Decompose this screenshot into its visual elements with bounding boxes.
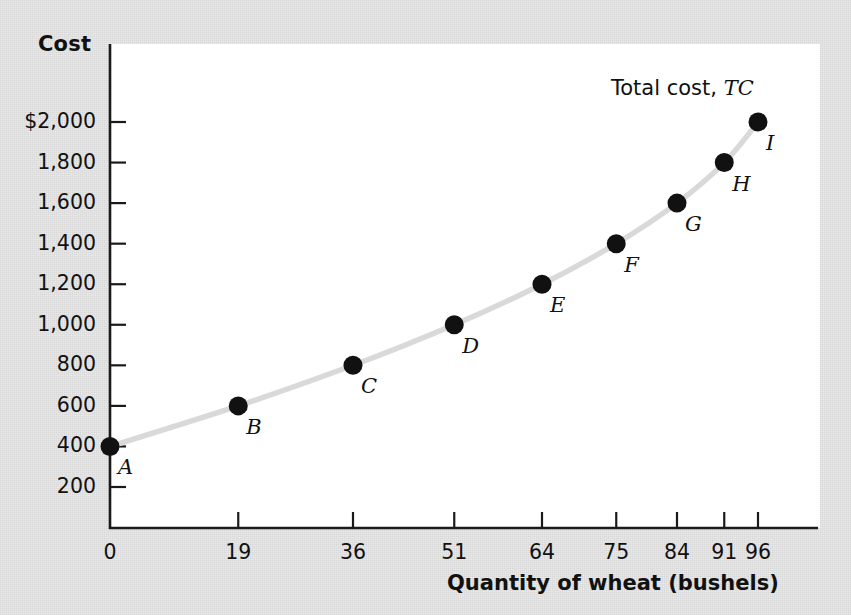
axis-lines: [110, 44, 818, 528]
y-tick-label-800: 800: [0, 352, 96, 376]
x-tick-label-64: 64: [502, 540, 582, 564]
data-point-D[interactable]: [445, 315, 464, 334]
y-tick-label-1400: 1,400: [0, 231, 96, 255]
x-tick-label-19: 19: [198, 540, 278, 564]
y-tick-label-600: 600: [0, 393, 96, 417]
y-tick-label-1800: 1,800: [0, 150, 96, 174]
data-point-label-E: E: [550, 293, 565, 317]
data-point-B[interactable]: [229, 396, 248, 415]
data-point-label-C: C: [361, 374, 377, 398]
total-cost-curve-figure: Cost Quantity of wheat (bushels) Total c…: [0, 0, 851, 615]
data-point-I[interactable]: [749, 113, 768, 132]
x-tick-label-51: 51: [414, 540, 494, 564]
data-point-E[interactable]: [533, 275, 552, 294]
data-point-label-D: D: [462, 334, 479, 358]
ticks-group: [110, 122, 758, 528]
x-tick-label-0: 0: [70, 540, 150, 564]
y-tick-label-2000: $2,000: [0, 109, 96, 133]
data-point-label-A: A: [118, 455, 133, 479]
y-tick-label-1000: 1,000: [0, 312, 96, 336]
x-tick-label-36: 36: [313, 540, 393, 564]
data-point-F[interactable]: [607, 234, 626, 253]
data-point-C[interactable]: [344, 356, 363, 375]
data-point-A[interactable]: [101, 437, 120, 456]
total-cost-curve: [110, 122, 758, 446]
data-point-G[interactable]: [668, 194, 687, 213]
y-tick-label-1600: 1,600: [0, 190, 96, 214]
axes-group: [110, 44, 818, 528]
data-point-label-F: F: [624, 253, 639, 277]
data-point-label-I: I: [766, 131, 774, 155]
data-point-H[interactable]: [715, 153, 734, 172]
y-tick-label-200: 200: [0, 474, 96, 498]
chart-canvas: [0, 0, 851, 615]
data-point-label-G: G: [685, 212, 702, 236]
x-tick-label-96: 96: [718, 540, 798, 564]
y-tick-label-400: 400: [0, 433, 96, 457]
y-tick-label-1200: 1,200: [0, 271, 96, 295]
data-point-label-H: H: [732, 172, 750, 196]
data-point-label-B: B: [246, 415, 261, 439]
data-points-group: [101, 113, 768, 456]
